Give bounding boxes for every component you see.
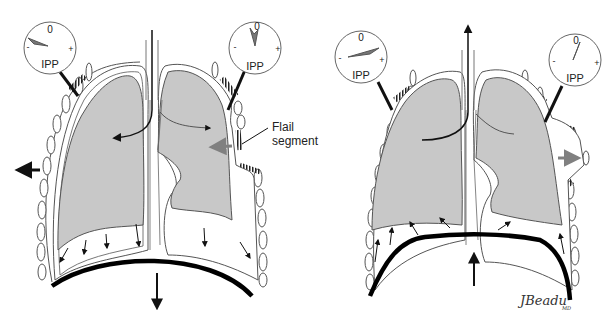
- ipp-gauge-right: 0 - + IPP: [545, 34, 601, 122]
- gauge-plus-label: +: [379, 55, 384, 65]
- ipp-gauge-left: 0 - + IPP: [24, 22, 78, 96]
- hatch: [238, 130, 240, 150]
- gauge-zero-label: 0: [47, 24, 53, 35]
- gauge-minus-label: -: [553, 56, 556, 66]
- gauge-plus-label: +: [68, 44, 73, 54]
- callout-line: [242, 128, 268, 144]
- gauge-ipp-label: IPP: [352, 69, 370, 81]
- gauge-ipp-label: IPP: [566, 72, 584, 84]
- flail-chest-diagram: 0 - + IPP 0 - + IPP Flail segment: [0, 0, 615, 324]
- gauge-ipp-label: IPP: [41, 58, 59, 70]
- flail-paradox-arrow: [212, 146, 232, 147]
- left-lung: [58, 76, 144, 250]
- gauge-zero-label: 0: [573, 35, 579, 46]
- gauge-minus-label: -: [339, 53, 342, 63]
- gauge-plus-label: +: [275, 44, 280, 54]
- ipp-gauge-right: 0 - + IPP: [228, 21, 281, 110]
- panel-inspiration: 0 - + IPP 0 - + IPP Flail segment: [18, 21, 319, 308]
- gauge-plus-label: +: [594, 58, 599, 68]
- gauge-ipp-label: IPP: [246, 60, 264, 72]
- left-lung: [372, 79, 462, 230]
- artist-signature-suffix: MD: [561, 305, 571, 311]
- callout-label-flail: Flail: [272, 120, 294, 134]
- mediastinum: [150, 100, 162, 250]
- panel-expiration: 0 - + IPP 0 - + IPP JBeadu MD: [335, 26, 601, 311]
- gauge-minus-label: -: [234, 42, 237, 52]
- artist-signature: JBeadu: [517, 293, 567, 308]
- callout-label-segment: segment: [272, 134, 319, 148]
- ipp-gauge-left: 0 - + IPP: [335, 31, 392, 110]
- gauge-minus-label: -: [27, 42, 30, 52]
- gauge-zero-label: 0: [358, 32, 364, 43]
